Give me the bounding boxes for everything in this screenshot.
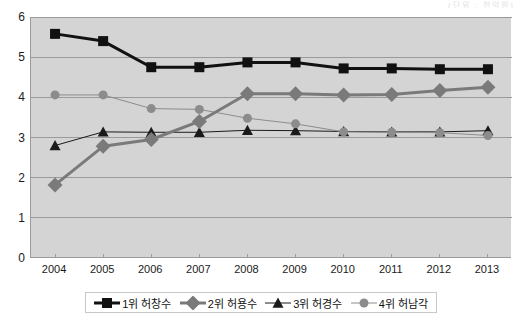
marker-circle xyxy=(387,128,396,137)
plot-inner xyxy=(31,17,511,257)
marker-circle xyxy=(147,104,156,113)
legend-label-2: 2위 허용수 xyxy=(208,295,257,311)
marker-diamond xyxy=(480,80,495,95)
legend-key-canvas xyxy=(265,296,291,310)
legend-label-3: 3위 허경수 xyxy=(293,295,342,311)
x-axis-tick-label: 2012 xyxy=(413,262,465,276)
marker-diamond xyxy=(144,132,159,147)
marker-square xyxy=(291,57,301,67)
x-axis-tick-label: 2010 xyxy=(317,262,369,276)
legend-label-4: 4위 허남각 xyxy=(379,295,428,311)
legend-item-3[interactable]: 3위 허경수 xyxy=(265,295,342,311)
marker-square xyxy=(339,63,349,73)
chart-root: (단위 : 천억원) 0123456 200420052006200720082… xyxy=(0,0,521,315)
y-axis-tick-label: 6 xyxy=(18,11,25,23)
series-1 xyxy=(50,29,493,74)
marker-circle xyxy=(483,131,492,140)
chart-legend: 1위 허창수2위 허용수3위 허경수4위 허남각 xyxy=(85,292,437,313)
series-4 xyxy=(51,90,493,140)
legend-key-square-icon xyxy=(94,296,120,310)
legend-label-1: 1위 허창수 xyxy=(122,295,171,311)
x-axis-tick-label: 2005 xyxy=(76,262,128,276)
marker-diamond xyxy=(336,87,351,102)
marker-circle xyxy=(99,90,108,99)
marker-square xyxy=(483,64,493,74)
marker-square xyxy=(50,29,60,39)
marker-square xyxy=(102,298,112,308)
y-axis-tick-label: 5 xyxy=(18,51,25,63)
marker-square xyxy=(98,36,108,46)
marker-diamond xyxy=(240,86,255,101)
legend-item-4[interactable]: 4위 허남각 xyxy=(351,295,428,311)
x-axis-tick-label: 2006 xyxy=(124,262,176,276)
marker-circle xyxy=(243,114,252,123)
marker-square xyxy=(242,57,252,67)
series-line xyxy=(55,34,488,69)
x-axis-tick-label: 2004 xyxy=(28,262,80,276)
y-axis-tick-label: 1 xyxy=(18,212,25,224)
y-axis-tick-label: 3 xyxy=(18,132,25,144)
legend-key-canvas xyxy=(351,296,377,310)
marker-circle xyxy=(291,119,300,128)
marker-diamond xyxy=(432,83,447,98)
marker-circle xyxy=(359,298,368,307)
series-line xyxy=(55,95,488,136)
x-axis-tick-label: 2011 xyxy=(365,262,417,276)
marker-diamond xyxy=(384,87,399,102)
marker-square xyxy=(387,63,397,73)
legend-item-1[interactable]: 1위 허창수 xyxy=(94,295,171,311)
marker-square xyxy=(435,64,445,74)
plot-area xyxy=(30,17,511,258)
series-2 xyxy=(48,80,496,193)
y-axis-tick-label: 0 xyxy=(18,252,25,264)
marker-square xyxy=(194,62,204,72)
chart-canvas xyxy=(31,17,512,258)
marker-square xyxy=(146,62,156,72)
marker-circle xyxy=(435,128,444,137)
legend-key-canvas xyxy=(180,296,206,310)
x-axis-labels: 2004200520062007200820092010201120122013 xyxy=(30,262,511,282)
y-axis-tick-label: 4 xyxy=(18,91,25,103)
x-axis-tick-label: 2013 xyxy=(461,262,513,276)
legend-key-circle-icon xyxy=(351,296,377,310)
marker-circle xyxy=(339,127,348,136)
legend-key-canvas xyxy=(94,296,120,310)
marker-diamond xyxy=(192,114,207,129)
x-axis-tick-label: 2008 xyxy=(220,262,272,276)
legend-key-diamond-icon xyxy=(180,296,206,310)
y-axis-tick-label: 2 xyxy=(18,172,25,184)
y-axis-labels: 0123456 xyxy=(0,0,30,275)
series-line xyxy=(55,87,488,185)
x-axis-tick-label: 2007 xyxy=(172,262,224,276)
marker-circle xyxy=(195,105,204,114)
x-axis-tick-label: 2009 xyxy=(269,262,321,276)
units-caption: (단위 : 천억원) xyxy=(448,0,515,8)
marker-triangle xyxy=(50,140,61,150)
legend-item-2[interactable]: 2위 허용수 xyxy=(180,295,257,311)
legend-key-triangle-icon xyxy=(265,296,291,310)
marker-diamond xyxy=(288,86,303,101)
marker-circle xyxy=(51,90,60,99)
marker-diamond xyxy=(185,296,200,310)
